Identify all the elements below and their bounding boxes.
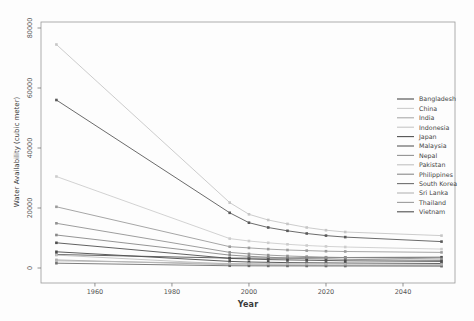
- series-marker-sri-lanka: [286, 263, 289, 266]
- series-marker-vietnam: [228, 257, 231, 260]
- figure: 1960198020002020204002000040000600008000…: [0, 0, 474, 321]
- series-marker-thailand: [267, 248, 270, 251]
- series-marker-philippines: [248, 255, 251, 258]
- series-marker-vietnam: [55, 242, 58, 245]
- series-marker-south-korea: [55, 262, 58, 265]
- series-marker-philippines: [55, 234, 58, 237]
- series-marker-sri-lanka: [228, 262, 231, 265]
- x-tick-label: 1980: [164, 288, 181, 296]
- y-tick-label: 20000: [26, 198, 34, 219]
- series-marker-vietnam: [248, 258, 251, 261]
- series-marker-china: [344, 246, 347, 249]
- series-marker-malaysia: [267, 226, 270, 229]
- series-marker-indonesia: [440, 234, 443, 237]
- y-tick-label: 80000: [26, 18, 34, 39]
- series-marker-thailand: [286, 249, 289, 252]
- series-marker-philippines: [228, 254, 231, 257]
- series-marker-nepal: [228, 251, 231, 254]
- x-axis-title: Year: [41, 300, 455, 309]
- legend-label-south-korea: South Korea: [419, 180, 457, 187]
- series-marker-malaysia: [305, 232, 308, 235]
- series-marker-sri-lanka: [55, 260, 58, 263]
- series-marker-china: [325, 245, 328, 248]
- series-marker-nepal: [248, 253, 251, 256]
- legend-label-bangladesh: Bangladesh: [419, 95, 456, 103]
- series-marker-malaysia: [55, 99, 58, 102]
- series-marker-thailand: [248, 247, 251, 250]
- series-marker-thailand: [440, 251, 443, 254]
- series-marker-malaysia: [248, 221, 251, 224]
- y-tick-label: 60000: [26, 78, 34, 99]
- x-tick-label: 2020: [318, 288, 335, 296]
- x-tick-label: 2040: [395, 288, 412, 296]
- legend-label-malaysia: Malaysia: [419, 142, 447, 150]
- series-marker-indonesia: [55, 43, 58, 46]
- series-marker-malaysia: [228, 212, 231, 215]
- series-marker-china: [267, 242, 270, 245]
- series-marker-thailand: [55, 206, 58, 209]
- series-marker-vietnam: [305, 259, 308, 262]
- series-marker-sri-lanka: [267, 263, 270, 266]
- series-marker-sri-lanka: [305, 263, 308, 266]
- legend-label-pakistan: Pakistan: [419, 161, 445, 168]
- series-marker-china: [55, 175, 58, 178]
- legend-label-india: India: [419, 114, 435, 121]
- legend-label-sri-lanka: Sri Lanka: [419, 189, 448, 196]
- series-marker-malaysia: [344, 236, 347, 239]
- series-marker-indonesia: [267, 219, 270, 222]
- series-marker-vietnam: [344, 260, 347, 263]
- y-axis-title: Water Availability (cubic meter): [13, 92, 21, 212]
- x-tick-label: 1960: [87, 288, 104, 296]
- series-marker-indonesia: [344, 231, 347, 234]
- series-marker-china: [248, 240, 251, 243]
- x-tick-label: 2000: [241, 288, 258, 296]
- series-line-indonesia: [56, 45, 441, 236]
- series-marker-china: [286, 243, 289, 246]
- series-marker-vietnam: [286, 259, 289, 262]
- line-chart: 1960198020002020204002000040000600008000…: [0, 0, 474, 321]
- series-marker-malaysia: [325, 234, 328, 237]
- series-marker-sri-lanka: [248, 262, 251, 265]
- legend-label-indonesia: Indonesia: [419, 124, 450, 131]
- series-marker-indonesia: [248, 213, 251, 216]
- series-marker-china: [305, 244, 308, 247]
- series-marker-bangladesh: [55, 251, 58, 254]
- series-marker-vietnam: [440, 260, 443, 263]
- series-marker-china: [440, 248, 443, 251]
- series-marker-thailand: [344, 250, 347, 253]
- series-marker-pakistan: [55, 254, 58, 257]
- y-tick-label: 40000: [26, 138, 34, 159]
- series-marker-thailand: [305, 249, 308, 252]
- series-marker-china: [228, 237, 231, 240]
- series-marker-nepal: [55, 222, 58, 225]
- series-marker-indonesia: [286, 223, 289, 226]
- series-marker-south-korea: [228, 264, 231, 267]
- series-marker-sri-lanka: [325, 263, 328, 266]
- series-marker-sri-lanka: [440, 263, 443, 266]
- plot-frame: [41, 22, 455, 283]
- legend-label-china: China: [419, 105, 437, 112]
- series-marker-indonesia: [228, 201, 231, 204]
- legend-label-philippines: Philippines: [419, 171, 453, 179]
- series-marker-malaysia: [286, 230, 289, 233]
- series-marker-indonesia: [325, 229, 328, 232]
- legend-label-vietnam: Vietnam: [419, 208, 445, 215]
- series-marker-vietnam: [267, 258, 270, 261]
- series-marker-philippines: [267, 256, 270, 259]
- legend-label-thailand: Thailand: [418, 199, 446, 206]
- y-tick-label: 0: [26, 266, 34, 270]
- series-line-china: [56, 177, 441, 250]
- series-marker-sri-lanka: [344, 263, 347, 266]
- series-marker-malaysia: [440, 240, 443, 243]
- legend-label-nepal: Nepal: [419, 152, 437, 160]
- series-marker-thailand: [325, 250, 328, 253]
- series-marker-vietnam: [325, 259, 328, 262]
- series-marker-thailand: [228, 245, 231, 248]
- legend-label-japan: Japan: [418, 133, 437, 141]
- series-marker-indonesia: [305, 226, 308, 229]
